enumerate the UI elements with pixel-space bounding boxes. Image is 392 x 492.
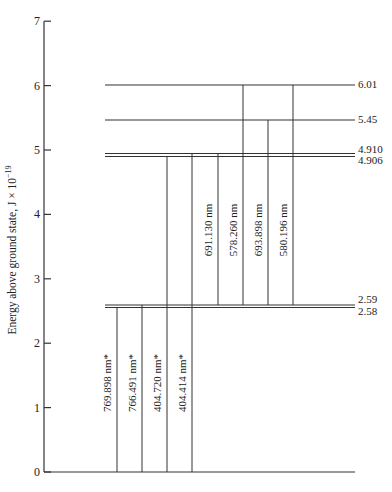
y-tick-label: 6	[34, 79, 40, 93]
y-tick-label: 7	[34, 14, 40, 28]
level-value-label: 2.59	[358, 293, 378, 305]
y-tick-label: 4	[34, 207, 40, 221]
level-value-label: 4.906	[358, 154, 383, 166]
y-tick-label: 5	[34, 143, 40, 157]
wavelength-label: 404.414 nm*	[176, 354, 188, 412]
wavelength-label: 693.898 nm	[252, 203, 264, 256]
y-tick-label: 3	[34, 272, 40, 286]
level-value-label: 6.01	[358, 78, 377, 90]
wavelength-label: 578.260 nm	[227, 203, 239, 256]
wavelength-label: 766.491 nm*	[126, 354, 138, 412]
y-tick-label: 1	[34, 401, 40, 415]
wavelength-label: 404.720 nm*	[151, 354, 163, 412]
level-value-label: 2.58	[358, 305, 378, 317]
y-axis	[44, 21, 355, 472]
energy-level-diagram: 01234567 Energy above ground state, J × …	[0, 0, 392, 492]
y-axis-label: Energy above ground state, J × 10−19	[4, 165, 19, 334]
energy-levels	[105, 85, 355, 308]
diagram-svg: 01234567 Energy above ground state, J × …	[0, 0, 392, 492]
y-tick-label: 2	[34, 336, 40, 350]
wavelength-label: 580.196 nm	[277, 203, 289, 256]
y-tick-label: 0	[34, 465, 40, 479]
transition-lines	[117, 85, 293, 472]
y-tick-labels: 01234567	[34, 14, 40, 479]
wavelength-label: 691.130 nm	[202, 203, 214, 256]
level-labels: 6.015.454.9104.9062.592.58769.898 nm*766…	[101, 78, 383, 412]
level-value-label: 5.45	[358, 113, 378, 125]
wavelength-label: 769.898 nm*	[101, 354, 113, 412]
